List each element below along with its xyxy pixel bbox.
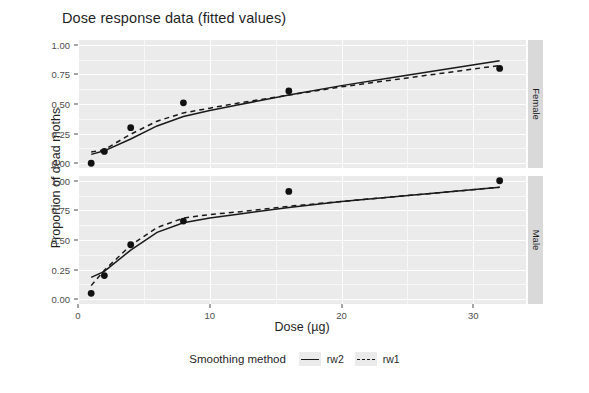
y-tick-mark xyxy=(74,44,78,45)
y-tick-label: 0.75 xyxy=(30,205,70,216)
y-tick-mark xyxy=(74,299,78,300)
y-tick-mark xyxy=(74,104,78,105)
x-tick-label: 10 xyxy=(205,310,216,321)
y-tick-label: 0.25 xyxy=(30,264,70,275)
data-point xyxy=(180,99,187,106)
legend-title: Smoothing method xyxy=(189,353,286,365)
x-tick-mark xyxy=(473,304,474,308)
data-point xyxy=(127,124,134,131)
y-tick-mark xyxy=(74,74,78,75)
panel-male xyxy=(78,176,526,304)
y-tick-mark xyxy=(74,180,78,181)
legend-key-rw2[interactable]: rw2 xyxy=(299,352,344,366)
data-point xyxy=(285,88,292,95)
facet-strip-label-female: Female xyxy=(530,88,541,120)
legend-line-solid-icon xyxy=(299,352,321,366)
y-tick-mark xyxy=(74,269,78,270)
data-point xyxy=(88,160,95,167)
series-line-rw2 xyxy=(91,61,499,155)
chart-root: Dose response data (fitted values) Propo… xyxy=(0,0,589,393)
facet-strip-male: Male xyxy=(528,176,543,304)
data-point xyxy=(180,218,187,225)
y-tick-label: 0.50 xyxy=(30,235,70,246)
y-tick-mark xyxy=(74,240,78,241)
data-point xyxy=(88,290,95,297)
x-tick-label: 20 xyxy=(336,310,347,321)
y-tick-label: 0.00 xyxy=(30,294,70,305)
x-tick-mark xyxy=(209,304,210,308)
data-point xyxy=(101,272,108,279)
data-point xyxy=(285,188,292,195)
panel-female xyxy=(78,40,526,168)
y-tick-label: 0.75 xyxy=(30,69,70,80)
y-tick-label: 0.50 xyxy=(30,99,70,110)
y-tick-label: 1.00 xyxy=(30,175,70,186)
data-layer-female xyxy=(78,40,526,168)
facet-strip-female: Female xyxy=(528,40,543,168)
y-tick-label: 1.00 xyxy=(30,39,70,50)
data-point xyxy=(496,177,503,184)
x-tick-label: 0 xyxy=(75,310,80,321)
legend-key-rw1[interactable]: rw1 xyxy=(355,352,400,366)
data-point xyxy=(101,148,108,155)
chart-title: Dose response data (fitted values) xyxy=(62,10,286,26)
x-axis-title: Dose (µg) xyxy=(78,320,526,334)
y-tick-label: 0.00 xyxy=(30,158,70,169)
y-tick-mark xyxy=(74,163,78,164)
legend: Smoothing method rw2 rw1 xyxy=(0,352,589,366)
series-line-rw2 xyxy=(91,187,499,277)
data-point xyxy=(127,241,134,248)
x-tick-mark xyxy=(78,304,79,308)
legend-line-dashed-icon xyxy=(355,352,377,366)
facet-strip-label-male: Male xyxy=(530,230,541,251)
y-tick-mark xyxy=(74,133,78,134)
y-tick-mark xyxy=(74,210,78,211)
series-line-rw1 xyxy=(91,187,499,285)
series-line-rw1 xyxy=(91,65,499,152)
legend-label-rw2: rw2 xyxy=(327,353,344,365)
x-tick-mark xyxy=(341,304,342,308)
x-tick-label: 30 xyxy=(468,310,479,321)
y-tick-label: 0.25 xyxy=(30,128,70,139)
data-layer-male xyxy=(78,176,526,304)
legend-label-rw1: rw1 xyxy=(383,353,400,365)
data-point xyxy=(496,65,503,72)
